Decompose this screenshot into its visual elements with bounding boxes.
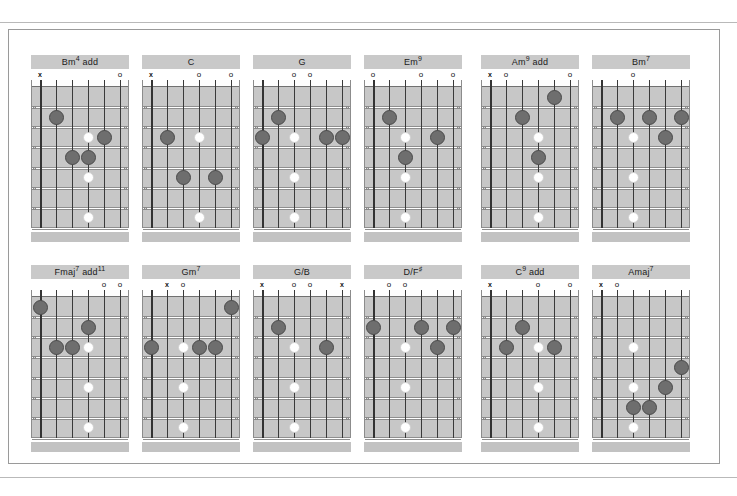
scale-dot[interactable]	[628, 172, 639, 183]
chord-diagram[interactable]: Bm4 addxo	[31, 55, 129, 242]
finger-dot[interactable]	[224, 300, 239, 315]
scale-dot[interactable]	[83, 422, 94, 433]
chord-diagram[interactable]: Amaj7xo	[592, 265, 690, 452]
fretboard[interactable]	[142, 80, 240, 228]
finger-dot[interactable]	[192, 340, 207, 355]
finger-dot[interactable]	[65, 150, 80, 165]
finger-dot[interactable]	[33, 300, 48, 315]
scale-dot[interactable]	[628, 212, 639, 223]
chord-diagram[interactable]: Goo	[253, 55, 351, 242]
scale-dot[interactable]	[628, 132, 639, 143]
scale-dot[interactable]	[400, 172, 411, 183]
scale-dot[interactable]	[289, 342, 300, 353]
finger-dot[interactable]	[49, 110, 64, 125]
scale-dot[interactable]	[400, 212, 411, 223]
fretboard[interactable]	[253, 80, 351, 228]
chord-diagram[interactable]: C9 addxoo	[481, 265, 579, 452]
finger-dot[interactable]	[547, 90, 562, 105]
chord-diagram[interactable]: Fmaj7 add11oo	[31, 265, 129, 452]
chord-diagram[interactable]: Gm7xo	[142, 265, 240, 452]
chord-diagram[interactable]: Em9ooo	[364, 55, 462, 242]
scale-dot[interactable]	[289, 212, 300, 223]
scale-dot[interactable]	[83, 382, 94, 393]
scale-dot[interactable]	[533, 132, 544, 143]
finger-dot[interactable]	[547, 340, 562, 355]
finger-dot[interactable]	[335, 130, 350, 145]
finger-dot[interactable]	[430, 340, 445, 355]
finger-dot[interactable]	[610, 110, 625, 125]
finger-dot[interactable]	[658, 130, 673, 145]
finger-dot[interactable]	[642, 400, 657, 415]
finger-dot[interactable]	[642, 110, 657, 125]
scale-dot[interactable]	[400, 342, 411, 353]
fretboard[interactable]	[364, 80, 462, 228]
fretboard[interactable]	[142, 290, 240, 438]
finger-dot[interactable]	[81, 320, 96, 335]
scale-dot[interactable]	[628, 382, 639, 393]
finger-dot[interactable]	[49, 340, 64, 355]
fretboard[interactable]	[364, 290, 462, 438]
finger-dot[interactable]	[160, 130, 175, 145]
scale-dot[interactable]	[83, 132, 94, 143]
finger-dot[interactable]	[499, 340, 514, 355]
scale-dot[interactable]	[400, 132, 411, 143]
chord-diagram[interactable]: Am9 addxoo	[481, 55, 579, 242]
scale-dot[interactable]	[289, 382, 300, 393]
scale-dot[interactable]	[178, 422, 189, 433]
scale-dot[interactable]	[83, 212, 94, 223]
finger-dot[interactable]	[255, 130, 270, 145]
fretboard[interactable]	[31, 80, 129, 228]
finger-dot[interactable]	[626, 400, 641, 415]
finger-dot[interactable]	[319, 130, 334, 145]
finger-dot[interactable]	[658, 380, 673, 395]
fretboard[interactable]	[31, 290, 129, 438]
chord-diagram[interactable]: G/Bxoox	[253, 265, 351, 452]
scale-dot[interactable]	[83, 172, 94, 183]
chord-diagram[interactable]: Cxoo	[142, 55, 240, 242]
finger-dot[interactable]	[446, 320, 461, 335]
finger-dot[interactable]	[319, 340, 334, 355]
finger-dot[interactable]	[515, 320, 530, 335]
scale-dot[interactable]	[628, 422, 639, 433]
scale-dot[interactable]	[400, 422, 411, 433]
scale-dot[interactable]	[178, 342, 189, 353]
scale-dot[interactable]	[83, 342, 94, 353]
finger-dot[interactable]	[382, 110, 397, 125]
finger-dot[interactable]	[144, 340, 159, 355]
finger-dot[interactable]	[674, 110, 689, 125]
finger-dot[interactable]	[208, 170, 223, 185]
fretboard[interactable]	[592, 80, 690, 228]
finger-dot[interactable]	[65, 340, 80, 355]
scale-dot[interactable]	[628, 342, 639, 353]
finger-dot[interactable]	[398, 150, 413, 165]
scale-dot[interactable]	[533, 422, 544, 433]
finger-dot[interactable]	[81, 150, 96, 165]
scale-dot[interactable]	[533, 342, 544, 353]
chord-diagram[interactable]: D/F♯oo	[364, 265, 462, 452]
scale-dot[interactable]	[289, 172, 300, 183]
fretboard[interactable]	[253, 290, 351, 438]
scale-dot[interactable]	[194, 212, 205, 223]
finger-dot[interactable]	[531, 150, 546, 165]
scale-dot[interactable]	[178, 382, 189, 393]
fretboard[interactable]	[592, 290, 690, 438]
finger-dot[interactable]	[271, 110, 286, 125]
finger-dot[interactable]	[515, 110, 530, 125]
scale-dot[interactable]	[289, 422, 300, 433]
fretboard[interactable]	[481, 290, 579, 438]
finger-dot[interactable]	[414, 320, 429, 335]
finger-dot[interactable]	[271, 320, 286, 335]
finger-dot[interactable]	[674, 360, 689, 375]
scale-dot[interactable]	[533, 172, 544, 183]
fretboard[interactable]	[481, 80, 579, 228]
finger-dot[interactable]	[430, 130, 445, 145]
finger-dot[interactable]	[208, 340, 223, 355]
scale-dot[interactable]	[194, 132, 205, 143]
scale-dot[interactable]	[289, 132, 300, 143]
finger-dot[interactable]	[366, 320, 381, 335]
chord-diagram[interactable]: Bm7o	[592, 55, 690, 242]
finger-dot[interactable]	[97, 130, 112, 145]
scale-dot[interactable]	[400, 382, 411, 393]
scale-dot[interactable]	[533, 212, 544, 223]
finger-dot[interactable]	[176, 170, 191, 185]
